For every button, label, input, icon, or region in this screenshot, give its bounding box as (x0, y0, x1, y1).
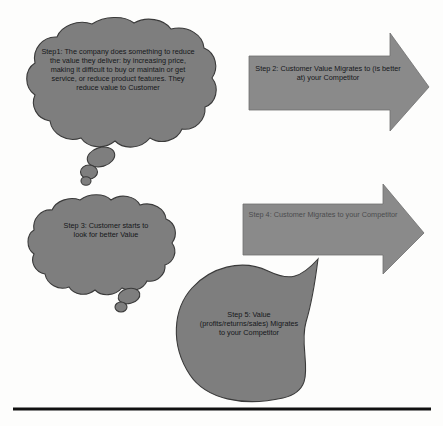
step1-tail-bubble-small (81, 177, 91, 185)
diagram-canvas: Step1: The company does something to red… (0, 0, 443, 426)
step5-teardrop[interactable] (176, 259, 318, 402)
diagram-shapes-layer (0, 0, 443, 426)
step1-thought-cloud[interactable] (27, 17, 216, 185)
step4-right-arrow[interactable] (243, 184, 424, 274)
step3-thought-cloud[interactable] (28, 195, 175, 312)
step5-teardrop-shape (176, 259, 318, 402)
step1-cloud-body (27, 17, 216, 147)
step3-cloud-body (28, 195, 175, 295)
step4-arrow-shape (243, 184, 424, 274)
step2-arrow-shape (249, 33, 429, 131)
step1-tail-bubble-medium (81, 165, 98, 179)
step2-right-arrow[interactable] (249, 33, 429, 131)
step3-tail-bubble-small (115, 302, 127, 312)
